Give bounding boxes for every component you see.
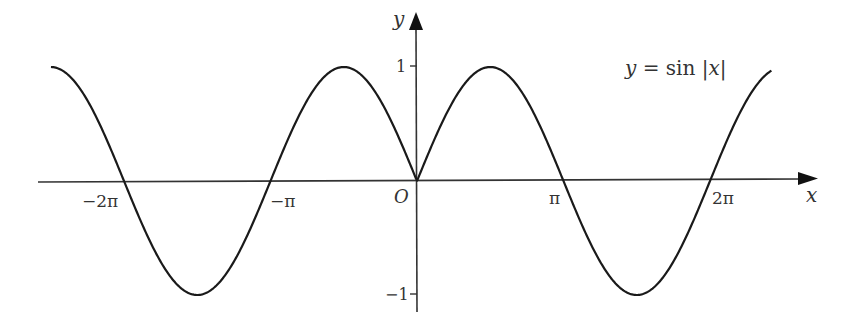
x-axis-label: x bbox=[806, 183, 817, 207]
x-axis bbox=[38, 179, 800, 182]
x-tick-label-2pi: 2π bbox=[712, 188, 734, 208]
x-tick-label-neg2pi: −2π bbox=[82, 191, 118, 211]
y-axis-arrow-icon bbox=[409, 12, 423, 30]
y-axis bbox=[416, 28, 417, 312]
y-tick-label-neg1: −1 bbox=[385, 285, 409, 304]
x-tick-label-negpi: −π bbox=[270, 191, 295, 211]
y-axis-label: y bbox=[392, 7, 405, 31]
sine-abs-plot: y x O 1 −1 −2π −π π 2π y = sin |x| bbox=[0, 0, 865, 329]
function-label: y = sin |x| bbox=[624, 56, 726, 81]
y-tick-label-1: 1 bbox=[396, 57, 406, 76]
x-tick-label-pi: π bbox=[549, 188, 560, 208]
origin-label: O bbox=[394, 186, 409, 207]
